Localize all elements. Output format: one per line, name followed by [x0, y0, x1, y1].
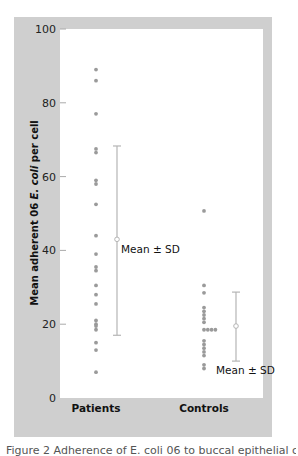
data-point	[94, 370, 98, 374]
patients-mean-sd-label: Mean ± SD	[121, 243, 180, 255]
y-tick-label: 60	[42, 171, 56, 184]
data-point	[202, 346, 206, 350]
data-point	[94, 324, 98, 328]
plot-area	[60, 29, 263, 398]
data-point	[202, 354, 206, 358]
y-tick-label: 100	[35, 23, 56, 36]
data-point	[94, 319, 98, 323]
y-tick-label: 80	[42, 97, 56, 110]
data-point	[202, 363, 206, 367]
data-point	[94, 302, 98, 306]
data-point	[94, 252, 98, 256]
data-point	[94, 265, 98, 269]
data-point	[94, 348, 98, 352]
data-point	[210, 328, 214, 332]
y-tick-label: 20	[42, 318, 56, 331]
data-point	[202, 306, 206, 310]
data-point	[94, 328, 98, 332]
data-point	[202, 284, 206, 288]
data-point	[94, 284, 98, 288]
data-point	[94, 234, 98, 238]
data-point	[94, 147, 98, 151]
figure-caption-fragment: Figure 2 Adherence of E. coli 06 to bucc…	[6, 444, 296, 456]
data-point	[202, 317, 206, 321]
data-point	[206, 328, 210, 332]
data-point	[94, 79, 98, 83]
data-point	[94, 68, 98, 72]
mean-marker	[115, 237, 120, 242]
y-axis-label: Mean adherent 06 E. coli per cell	[29, 120, 40, 306]
y-tick-label: 0	[49, 392, 56, 405]
data-point	[94, 293, 98, 297]
data-point	[94, 341, 98, 345]
data-point	[94, 151, 98, 155]
data-point	[202, 350, 206, 354]
data-point	[202, 291, 206, 295]
data-point	[94, 112, 98, 116]
data-point	[202, 309, 206, 313]
data-point	[202, 367, 206, 371]
controls-mean-sd-label: Mean ± SD	[216, 364, 275, 376]
data-point	[202, 209, 206, 213]
y-tick-label: 40	[42, 244, 56, 257]
data-point	[94, 269, 98, 273]
data-point	[202, 320, 206, 324]
data-point	[214, 328, 218, 332]
data-point	[94, 178, 98, 182]
data-point	[94, 202, 98, 206]
data-point	[202, 313, 206, 317]
data-point	[94, 182, 98, 186]
data-point	[202, 343, 206, 347]
mean-marker	[234, 324, 239, 329]
data-point	[202, 328, 206, 332]
data-point	[202, 339, 206, 343]
x-category-patients: Patients	[72, 402, 121, 414]
x-category-controls: Controls	[179, 402, 229, 414]
